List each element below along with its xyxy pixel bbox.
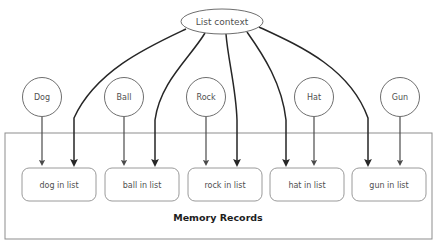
ball-node[interactable]: Ball (105, 78, 144, 117)
record-dog[interactable]: dog in list (22, 168, 96, 201)
record-ball[interactable]: ball in list (105, 168, 179, 201)
record-hat-label: hat in list (288, 181, 325, 190)
rock-node[interactable]: Rock (187, 78, 226, 117)
diagram-canvas: dog in list ball in list rock in list ha… (0, 0, 438, 244)
record-hat[interactable]: hat in list (270, 168, 344, 201)
hat-node-label: Hat (307, 93, 321, 102)
edge-context-to-hat-record (247, 32, 286, 163)
ball-node-label: Ball (117, 93, 132, 102)
gun-node[interactable]: Gun (381, 78, 420, 117)
dog-node-label: Dog (34, 93, 50, 102)
record-box-group: dog in list ball in list rock in list ha… (22, 168, 426, 201)
edge-context-to-rock-record (226, 34, 237, 163)
gun-node-label: Gun (392, 93, 408, 102)
record-gun[interactable]: gun in list (352, 168, 426, 201)
record-rock[interactable]: rock in list (188, 168, 262, 201)
list-context-node[interactable]: List context (181, 9, 263, 34)
direct-edge-group (42, 117, 400, 164)
hat-node[interactable]: Hat (295, 78, 334, 117)
record-gun-label: gun in list (369, 181, 408, 190)
list-context-label: List context (196, 17, 249, 27)
record-dog-label: dog in list (39, 181, 78, 190)
memory-records-label: Memory Records (173, 212, 263, 223)
record-rock-label: rock in list (204, 181, 245, 190)
dog-node[interactable]: Dog (23, 78, 62, 117)
diagram-svg: dog in list ball in list rock in list ha… (0, 0, 438, 244)
record-ball-label: ball in list (123, 181, 162, 190)
source-node-group: Dog Ball Rock Hat Gun (23, 78, 420, 117)
rock-node-label: Rock (196, 93, 215, 102)
